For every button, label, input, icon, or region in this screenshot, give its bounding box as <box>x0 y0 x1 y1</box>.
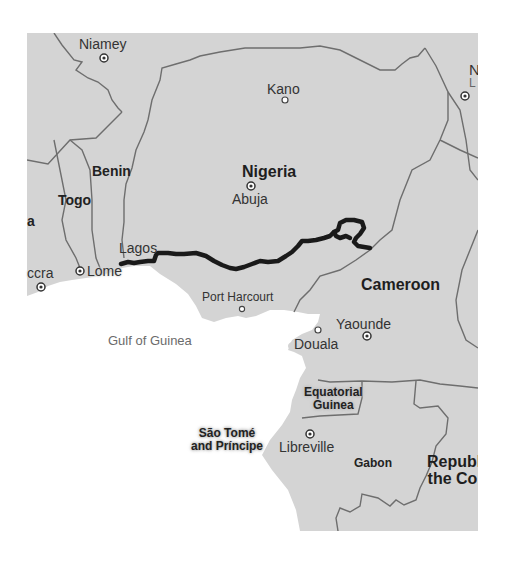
label-equatorial-guinea-line2: Guinea <box>304 399 363 412</box>
label-abuja[interactable]: Abuja <box>232 192 268 206</box>
label-ndjamena-line2: L <box>469 77 478 89</box>
label-ndjamena-line1: N <box>469 62 478 77</box>
label-lagos[interactable]: Lagos <box>119 241 157 255</box>
label-benin[interactable]: Benin <box>92 164 131 178</box>
label-douala[interactable]: Douala <box>294 337 338 351</box>
label-sao-tome-line2: and Príncipe <box>191 440 263 453</box>
label-sao-tome-line1: São Tomé <box>191 427 263 440</box>
label-port-harcourt[interactable]: Port Harcourt <box>202 291 273 303</box>
label-ndjamena-partial[interactable]: N L <box>469 62 478 89</box>
label-congo-line1: Republ <box>427 454 478 471</box>
label-congo-line2: the Co <box>427 471 478 488</box>
label-togo[interactable]: Togo <box>58 193 91 207</box>
label-gabon[interactable]: Gabon <box>354 457 392 469</box>
label-ghana-partial[interactable]: a <box>27 214 35 228</box>
label-niamey[interactable]: Niamey <box>79 37 126 51</box>
port-harcourt-marker[interactable] <box>239 306 244 311</box>
label-equatorial-guinea[interactable]: Equatorial Guinea <box>304 386 363 411</box>
label-yaounde[interactable]: Yaounde <box>336 317 391 331</box>
label-libreville[interactable]: Libreville <box>279 440 334 454</box>
label-accra[interactable]: ccra <box>27 266 53 280</box>
label-kano[interactable]: Kano <box>267 82 300 96</box>
label-sao-tome-principe[interactable]: São Tomé and Príncipe <box>191 427 263 452</box>
label-cameroon[interactable]: Cameroon <box>361 277 440 293</box>
label-equatorial-guinea-line1: Equatorial <box>304 386 363 399</box>
label-gulf-of-guinea[interactable]: Gulf of Guinea <box>108 334 192 347</box>
label-nigeria[interactable]: Nigeria <box>242 164 296 180</box>
douala-marker[interactable] <box>315 327 321 333</box>
label-lome[interactable]: Lome <box>87 264 122 278</box>
label-republic-of-congo[interactable]: Republ the Co <box>427 454 478 488</box>
kano-marker[interactable] <box>282 97 288 103</box>
